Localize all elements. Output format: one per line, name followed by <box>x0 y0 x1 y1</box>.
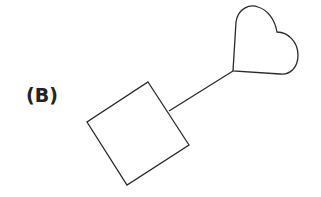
heart-shape <box>233 6 298 74</box>
connector-line <box>169 71 233 111</box>
square-shape <box>87 82 189 185</box>
diagram-canvas <box>0 0 321 197</box>
